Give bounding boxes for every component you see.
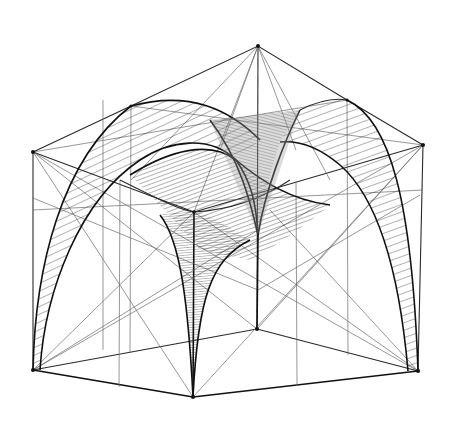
right-arch-band: [280, 99, 418, 371]
vault-sketch: [0, 0, 450, 424]
